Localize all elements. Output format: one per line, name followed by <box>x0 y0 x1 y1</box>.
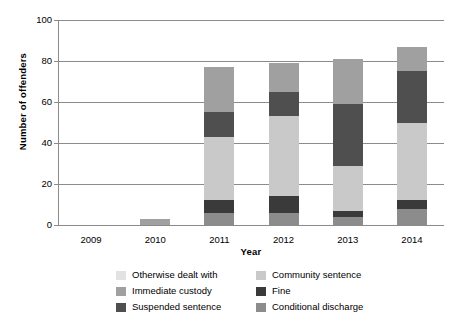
x-tick-label-2012: 2012 <box>273 234 294 245</box>
bar-segment[interactable] <box>397 209 427 225</box>
x-tick-label-2009: 2009 <box>81 234 102 245</box>
bar-segment[interactable] <box>269 196 299 212</box>
bar-segment[interactable] <box>333 166 363 211</box>
bar-segment[interactable] <box>397 47 427 72</box>
bar-segment[interactable] <box>204 112 234 137</box>
bar-stack-2012[interactable] <box>269 63 299 225</box>
bar-segment[interactable] <box>204 213 234 225</box>
bar-segment[interactable] <box>269 213 299 225</box>
legend-swatch-icon <box>116 303 126 312</box>
x-tick-label-2010: 2010 <box>145 234 166 245</box>
chart-legend: Otherwise dealt withCommunity sentenceIm… <box>116 267 396 315</box>
y-tick-mark-80 <box>54 61 58 62</box>
bar-segment[interactable] <box>140 219 170 225</box>
y-tick-label-60: 60 <box>41 97 52 107</box>
legend-item[interactable]: Immediate custody <box>116 283 256 299</box>
plot-area-wrapper: Number of offenders 020406080100 2009201… <box>0 0 459 262</box>
bar-segment[interactable] <box>204 137 234 201</box>
bar-segment[interactable] <box>397 123 427 201</box>
y-tick-mark-20 <box>54 184 58 185</box>
stacked-bar-chart: Number of offenders 020406080100 2009201… <box>0 0 459 330</box>
bar-segment[interactable] <box>269 116 299 196</box>
bar-segment[interactable] <box>269 63 299 92</box>
bar-segment[interactable] <box>269 92 299 117</box>
bar-segment[interactable] <box>397 71 427 122</box>
legend-swatch-icon <box>256 271 266 280</box>
bar-stack-2014[interactable] <box>397 47 427 225</box>
legend-swatch-icon <box>256 303 266 312</box>
bar-segment[interactable] <box>204 67 234 112</box>
legend-item[interactable]: Suspended sentence <box>116 299 256 315</box>
legend-item[interactable]: Conditional discharge <box>256 299 396 315</box>
legend-item[interactable]: Otherwise dealt with <box>116 267 256 283</box>
y-tick-label-100: 100 <box>36 15 52 25</box>
x-tick-label-2011: 2011 <box>209 234 229 245</box>
bar-stack-2010[interactable] <box>140 219 170 225</box>
plot-area: 020406080100 200920102011201220132014 <box>58 20 444 225</box>
y-tick-mark-0 <box>54 225 58 226</box>
legend-label: Fine <box>272 286 290 296</box>
legend-label: Conditional discharge <box>272 302 363 312</box>
legend-item[interactable]: Community sentence <box>256 267 396 283</box>
bar-segment[interactable] <box>397 200 427 208</box>
legend-label: Otherwise dealt with <box>132 270 218 280</box>
bar-group-2012: 2012 <box>252 20 316 225</box>
y-tick-label-40: 40 <box>41 138 52 148</box>
bar-segment[interactable] <box>333 217 363 225</box>
y-tick-mark-40 <box>54 143 58 144</box>
y-tick-label-20: 20 <box>41 179 52 189</box>
bar-group-2009: 2009 <box>59 20 123 225</box>
y-tick-mark-100 <box>54 20 58 21</box>
legend-label: Immediate custody <box>132 286 212 296</box>
x-axis-title: Year <box>58 246 444 257</box>
y-tick-mark-60 <box>54 102 58 103</box>
legend-swatch-icon <box>116 287 126 296</box>
bar-group-2014: 2014 <box>380 20 444 225</box>
bar-stack-2013[interactable] <box>333 59 363 225</box>
legend-label: Suspended sentence <box>132 302 221 312</box>
legend-swatch-icon <box>116 271 126 280</box>
bar-segment[interactable] <box>333 59 363 104</box>
bar-group-2011: 2011 <box>187 20 251 225</box>
bar-group-2013: 2013 <box>316 20 380 225</box>
bar-segment[interactable] <box>204 200 234 212</box>
bar-segment[interactable] <box>333 104 363 166</box>
x-tick-label-2014: 2014 <box>401 234 422 245</box>
legend-label: Community sentence <box>272 270 361 280</box>
legend-item[interactable]: Fine <box>256 283 396 299</box>
legend-swatch-icon <box>256 287 266 296</box>
y-tick-label-80: 80 <box>41 56 52 66</box>
y-axis-title: Number of offenders <box>17 22 28 182</box>
y-tick-label-0: 0 <box>47 220 52 230</box>
x-tick-label-2013: 2013 <box>337 234 358 245</box>
bar-stack-2011[interactable] <box>204 67 234 225</box>
bar-group-2010: 2010 <box>123 20 187 225</box>
bar-series-container: 200920102011201220132014 <box>59 20 444 225</box>
